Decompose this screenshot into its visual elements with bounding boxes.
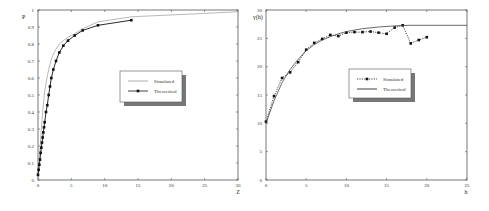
- data-marker: [40, 146, 43, 149]
- data-marker: [353, 31, 356, 34]
- variogram-chart: 0510152025051015202530hγ(h)SimulatedTheo…: [252, 8, 470, 195]
- y-tick-label: 0.5: [28, 93, 35, 98]
- data-marker: [329, 34, 332, 37]
- data-marker: [37, 169, 40, 172]
- x-tick-label: 5: [305, 183, 308, 188]
- y-tick-label: 1: [32, 8, 35, 13]
- y-tick-label: 0.8: [28, 42, 35, 47]
- data-marker: [43, 126, 46, 129]
- x-tick-label: 15: [384, 183, 390, 188]
- data-marker: [42, 131, 45, 134]
- x-tick-label: 10: [344, 183, 350, 188]
- data-marker: [45, 111, 48, 114]
- x-tick-label: 20: [424, 183, 430, 188]
- data-marker: [41, 136, 44, 139]
- y-tick-label: 20: [257, 64, 263, 69]
- charts-canvas: 05101520253000.10.20.30.40.50.60.70.80.9…: [0, 0, 489, 211]
- legend: SimulatedTheoretical: [349, 69, 415, 102]
- y-tick-label: 0.2: [28, 144, 35, 149]
- data-marker: [43, 121, 46, 124]
- data-marker: [385, 33, 388, 36]
- data-marker: [81, 29, 84, 32]
- x-tick-label: 0: [37, 183, 40, 188]
- data-marker: [55, 60, 58, 63]
- data-marker: [417, 39, 420, 42]
- data-marker: [297, 61, 300, 64]
- data-marker: [47, 94, 50, 97]
- y-tick-label: 0.7: [28, 59, 35, 64]
- y-tick-label: 10: [257, 121, 263, 126]
- data-marker: [37, 174, 40, 177]
- y-tick-label: 0.4: [28, 110, 35, 115]
- cdf-chart: 05101520253000.10.20.30.40.50.60.70.80.9…: [22, 8, 241, 195]
- y-axis-label: P: [22, 14, 26, 20]
- data-marker: [337, 35, 340, 38]
- data-marker: [369, 30, 372, 33]
- data-marker: [39, 152, 42, 155]
- x-axis-label: Z: [236, 189, 240, 195]
- data-marker: [393, 26, 396, 29]
- data-marker: [41, 141, 44, 144]
- legend: SimulatedTheoretical: [120, 71, 186, 106]
- y-tick-label: 0.1: [28, 161, 35, 166]
- data-marker: [426, 36, 429, 39]
- legend-label-simulated: Simulated: [154, 79, 175, 84]
- data-marker: [97, 24, 100, 27]
- data-marker: [38, 163, 41, 166]
- data-marker: [46, 104, 49, 107]
- legend-label-theoretical: Theoretical: [154, 89, 177, 94]
- x-tick-label: 0: [265, 183, 268, 188]
- x-tick-label: 15: [136, 183, 142, 188]
- y-tick-label: 5: [260, 149, 263, 154]
- x-tick-label: 10: [102, 183, 108, 188]
- y-tick-label: 0.6: [28, 76, 35, 81]
- y-tick-label: 0: [32, 178, 35, 183]
- x-tick-label: 20: [169, 183, 175, 188]
- data-marker: [273, 95, 276, 98]
- data-marker: [52, 68, 55, 71]
- data-marker: [361, 31, 364, 34]
- data-marker: [49, 85, 52, 88]
- data-marker: [130, 19, 133, 22]
- x-tick-label: 5: [70, 183, 73, 188]
- x-axis-label: h: [465, 189, 468, 195]
- legend-label-theoretical: Theoretical: [383, 87, 406, 92]
- data-marker: [73, 34, 76, 37]
- data-marker: [377, 31, 380, 34]
- data-marker: [62, 44, 65, 47]
- data-marker: [409, 42, 412, 45]
- y-tick-label: 0: [260, 178, 263, 183]
- x-tick-label: 30: [236, 183, 242, 188]
- x-tick-label: 25: [465, 183, 471, 188]
- legend-label-simulated: Simulated: [383, 77, 404, 82]
- y-tick-label: 0.3: [28, 127, 35, 132]
- data-marker: [281, 77, 284, 80]
- data-marker: [67, 39, 70, 42]
- y-tick-label: 0.9: [28, 25, 35, 30]
- data-marker: [50, 77, 53, 80]
- data-marker: [58, 51, 61, 54]
- data-marker: [39, 158, 42, 161]
- y-tick-label: 25: [257, 36, 263, 41]
- y-tick-label: 30: [257, 8, 263, 13]
- y-axis-label: γ(h): [252, 14, 263, 21]
- x-tick-label: 25: [202, 183, 208, 188]
- series-theoretical-line: [38, 20, 131, 175]
- y-tick-label: 15: [257, 93, 263, 98]
